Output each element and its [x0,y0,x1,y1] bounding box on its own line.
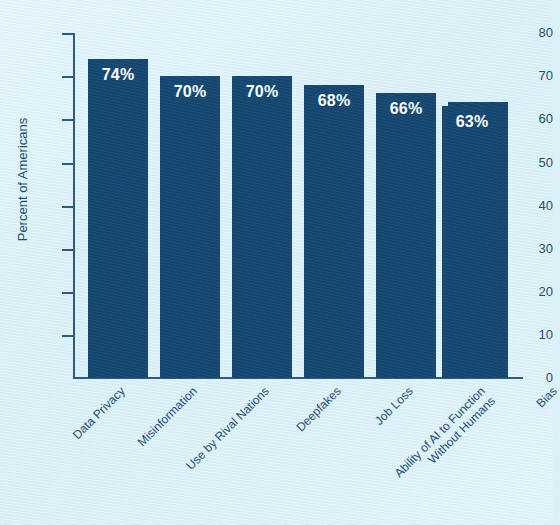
x-label-use-by-rival-nations: Use by Rival Nations [121,384,272,525]
bar-group-job-loss: 66% [376,33,436,378]
y-tick-10 [62,335,73,337]
bar-group-deepfakes: 68% [304,33,364,378]
y-tick-60 [62,119,73,121]
bar-deepfakes[interactable]: 68% [304,85,364,378]
bar-bias[interactable]: 63% [442,106,502,378]
x-label-ability-of-ai-to-function-without-humans: Ability of AI to Function Without Humans [337,384,498,525]
bar-job-loss[interactable]: 66% [376,93,436,378]
bar-use-by-rival-nations[interactable]: 70% [232,76,292,378]
bar-value-use-by-rival-nations: 70% [232,83,292,101]
y-tick-80 [62,33,73,35]
bar-value-bias: 63% [442,113,502,131]
bar-value-job-loss: 66% [376,100,436,118]
bar-value-data-privacy: 74% [88,66,148,84]
y-tick-70 [62,76,73,78]
y-tick-20 [62,292,73,294]
y-tick-30 [62,249,73,251]
bar-group-bias: 63% [442,106,502,378]
x-label-misinformation: Misinformation [49,384,200,525]
bar-group-use-by-rival-nations: 70% [232,33,292,378]
x-label-data-privacy: Data Privacy [0,384,128,525]
bar-value-deepfakes: 68% [304,92,364,110]
y-axis-title: Percent of Americans [15,85,30,275]
bar-group-data-privacy: 74% [88,33,148,378]
y-tick-50 [62,163,73,165]
bar-value-misinformation: 70% [160,83,220,101]
y-tick-40 [62,206,73,208]
x-label-deepfakes: Deepfakes [193,384,344,525]
bar-misinformation[interactable]: 70% [160,76,220,378]
bar-data-privacy[interactable]: 74% [88,59,148,378]
bar-group-misinformation: 70% [160,33,220,378]
